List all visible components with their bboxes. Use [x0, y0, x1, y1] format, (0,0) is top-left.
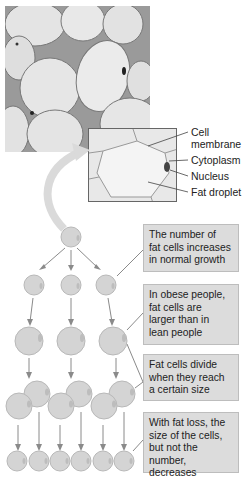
callout-line: when they reach: [149, 372, 233, 385]
label-cell-membrane: Cell membrane: [191, 126, 241, 150]
label-cytoplasm: Cytoplasm: [191, 154, 241, 166]
callout-cells-divide: Fat cells divide when they reach a certa…: [143, 354, 239, 401]
callout-line: larger than in: [149, 314, 233, 327]
callout-line: Fat cells divide: [149, 359, 233, 372]
callout-line: The number of: [149, 229, 233, 242]
callout-line: size of the cells,: [149, 430, 233, 443]
callout-line: fat cells are: [149, 302, 233, 315]
callout-line: but not the number,: [149, 442, 233, 467]
callout-line: With fat loss, the: [149, 417, 233, 430]
callout-line: in normal growth: [149, 254, 233, 267]
label-cell-membrane-line2: membrane: [191, 138, 241, 150]
callout-line: In obese people,: [149, 289, 233, 302]
label-cell-membrane-line1: Cell: [191, 126, 241, 138]
callout-line: lean people: [149, 327, 233, 340]
callout-line: fat cells increases: [149, 242, 233, 255]
callout-normal-growth: The number of fat cells increases in nor…: [143, 224, 239, 272]
callout-line: a certain size: [149, 384, 233, 397]
label-nucleus: Nucleus: [191, 170, 229, 182]
label-fat-droplet: Fat droplet: [191, 186, 241, 198]
callout-fat-loss: With fat loss, the size of the cells, bu…: [143, 412, 239, 473]
callout-line: decreases: [149, 467, 233, 477]
callout-obese-larger: In obese people, fat cells are larger th…: [143, 284, 239, 345]
